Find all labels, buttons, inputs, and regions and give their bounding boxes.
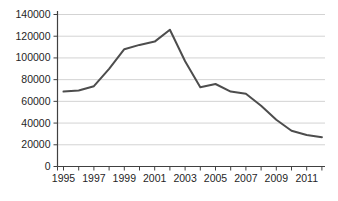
x-axis-tick-label: 2001 (143, 172, 167, 184)
y-axis-tick-label: 120000 (15, 30, 50, 42)
x-axis-tick-label: 2009 (265, 172, 289, 184)
x-axis-tick-label: 1999 (113, 172, 137, 184)
x-axis-tick-label: 2003 (173, 172, 197, 184)
y-axis-tick-label: 0 (45, 160, 51, 172)
line-chart-canvas: 0200004000060000800001000001200001400001… (0, 0, 338, 201)
x-axis-tick-label: 1995 (52, 172, 76, 184)
data-line-series (64, 30, 322, 138)
y-axis-tick-label: 80000 (21, 73, 50, 85)
y-axis-tick-label: 140000 (15, 8, 50, 20)
y-axis-tick-label: 60000 (21, 95, 50, 107)
x-axis-tick-label: 2011 (295, 172, 318, 184)
line-chart: 0200004000060000800001000001200001400001… (0, 0, 338, 201)
y-axis-tick-label: 20000 (21, 138, 50, 150)
x-axis-tick-label: 1997 (82, 172, 106, 184)
x-axis-tick-label: 2007 (234, 172, 258, 184)
y-axis-tick-label: 100000 (15, 51, 50, 63)
y-axis-tick-label: 40000 (21, 117, 50, 129)
x-axis-tick-label: 2005 (204, 172, 228, 184)
